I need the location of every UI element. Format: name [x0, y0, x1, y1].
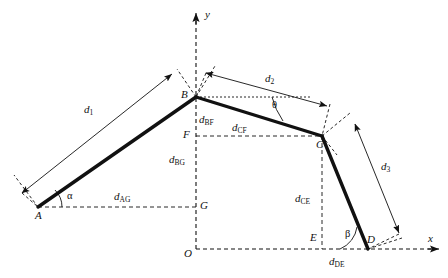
- dim-subscript-dAG: AG: [120, 195, 131, 204]
- extension-stubs: [14, 113, 402, 249]
- dim-symbol-dBG: d: [169, 153, 175, 165]
- point-label-E: E: [310, 232, 317, 243]
- dim-symbol-dCF: d: [232, 121, 238, 133]
- dimension-label-dBF: dBF: [199, 114, 214, 125]
- angle-label-alpha: α: [67, 191, 73, 202]
- dim-subscript-dDE: DE: [335, 260, 345, 269]
- angle-label-theta: θ: [272, 100, 277, 111]
- dim-symbol-dCE: d: [295, 192, 301, 204]
- leader-d2-right: [322, 104, 330, 136]
- dim-symbol-d1: d: [84, 103, 90, 115]
- stub-C-upper: [322, 113, 350, 136]
- dim-subscript-d2: 2: [271, 77, 275, 86]
- dim-subscript-d3: 3: [387, 165, 391, 174]
- point-label-A: A: [35, 210, 42, 221]
- leader-d1-start: [22, 193, 38, 207]
- dimension-label-dCE: dCE: [295, 193, 310, 204]
- dim-symbol-dBF: d: [199, 113, 205, 125]
- dim-subscript-dBF: BF: [205, 118, 214, 127]
- dimension-label-d1: d1: [84, 104, 93, 115]
- dimension-label-d3: d3: [381, 161, 390, 172]
- arrow-d1: [22, 74, 172, 193]
- point-label-C: C: [316, 139, 323, 150]
- point-label-O: O: [184, 248, 192, 259]
- dimension-arrows: [22, 73, 399, 233]
- dimension-label-dDE: dDE: [329, 256, 345, 267]
- dim-subscript-d1: 1: [90, 108, 94, 117]
- point-label-G: G: [200, 200, 208, 211]
- dim-symbol-d3: d: [381, 160, 387, 172]
- construction-lines: [38, 97, 322, 249]
- y-axis-label: y: [205, 9, 210, 20]
- stub-B-right: [196, 66, 215, 97]
- leader-d2-left: [196, 73, 206, 97]
- dim-subscript-dCE: CE: [301, 197, 311, 206]
- dimension-leaders: [22, 73, 399, 249]
- point-label-B: B: [181, 89, 188, 100]
- point-label-D: D: [367, 234, 375, 245]
- dimension-label-dCF: dCF: [232, 122, 247, 133]
- geometry-diagram: y x A B C D E F G O α θ β d1 d2 d3 dBF d…: [0, 0, 448, 278]
- diagram-canvas: [0, 0, 448, 278]
- dimension-label-dAG: dAG: [114, 191, 130, 202]
- arrow-d3: [355, 124, 399, 233]
- dim-subscript-dBG: BG: [175, 158, 185, 167]
- dim-subscript-dCF: CF: [238, 126, 247, 135]
- dimension-label-dBG: dBG: [169, 154, 185, 165]
- dim-symbol-dAG: d: [114, 190, 120, 202]
- dimension-label-d2: d2: [265, 73, 274, 84]
- dim-symbol-d2: d: [265, 72, 271, 84]
- dim-symbol-dDE: d: [329, 255, 335, 267]
- x-axis-label: x: [428, 233, 433, 244]
- link-BC: [196, 97, 322, 136]
- point-label-F: F: [183, 129, 190, 140]
- stub-A: [14, 175, 38, 207]
- angle-label-beta: β: [345, 229, 350, 240]
